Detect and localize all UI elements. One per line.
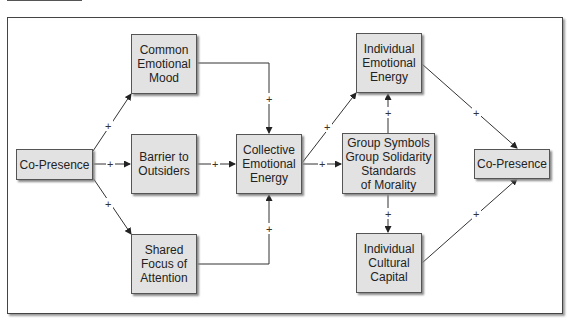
- node-co-presence-right: Co-Presence: [474, 149, 550, 179]
- edge-individual-ee-copresence: [422, 64, 517, 148]
- node-individual-cultural-capital: Individual Cultural Capital: [356, 233, 422, 293]
- edge-shared-collective: [197, 195, 269, 264]
- sign-plus: +: [473, 208, 479, 220]
- edge-cultural-copresence: [422, 179, 517, 263]
- node-barrier-to-outsiders: Barrier to Outsiders: [131, 134, 197, 194]
- sign-plus: +: [473, 107, 479, 119]
- sign-plus: +: [212, 158, 218, 170]
- sign-plus: +: [266, 93, 272, 105]
- sign-plus: +: [107, 158, 113, 170]
- sign-plus: +: [105, 120, 111, 132]
- node-group-symbols: Group Symbols Group Solidarity Standards…: [342, 133, 435, 194]
- sign-plus: +: [385, 107, 391, 119]
- sign-plus: +: [105, 198, 111, 210]
- node-collective-emotional-energy: Collective Emotional Energy: [236, 134, 302, 194]
- sign-plus: +: [324, 121, 330, 133]
- node-individual-emotional-energy: Individual Emotional Energy: [356, 33, 422, 93]
- node-co-presence-left: Co-Presence: [16, 149, 93, 180]
- edge-common-collective: [197, 63, 269, 133]
- sign-plus: +: [385, 208, 391, 220]
- sign-plus: +: [266, 223, 272, 235]
- node-shared-focus-of-attention: Shared Focus of Attention: [131, 234, 197, 294]
- node-common-emotional-mood: Common Emotional Mood: [131, 34, 197, 94]
- sign-plus: +: [319, 158, 325, 170]
